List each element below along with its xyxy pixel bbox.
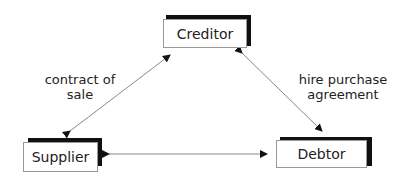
edge-label-hire-purchase-agreement: hire purchase agreement	[288, 72, 398, 102]
debtor-box: Debtor	[276, 140, 367, 168]
edge-label-contract-of-sale: contract of sale	[30, 72, 130, 102]
edge-label-line1: contract of	[30, 72, 130, 87]
edge-label-line2: agreement	[288, 87, 398, 102]
edge-label-line1: hire purchase	[288, 72, 398, 87]
edge-label-line2: sale	[30, 87, 130, 102]
debtor-shadow-right	[367, 137, 372, 166]
supplier-box: Supplier	[23, 142, 98, 172]
creditor-box: Creditor	[163, 19, 247, 48]
creditor-shadow-right	[247, 15, 251, 46]
